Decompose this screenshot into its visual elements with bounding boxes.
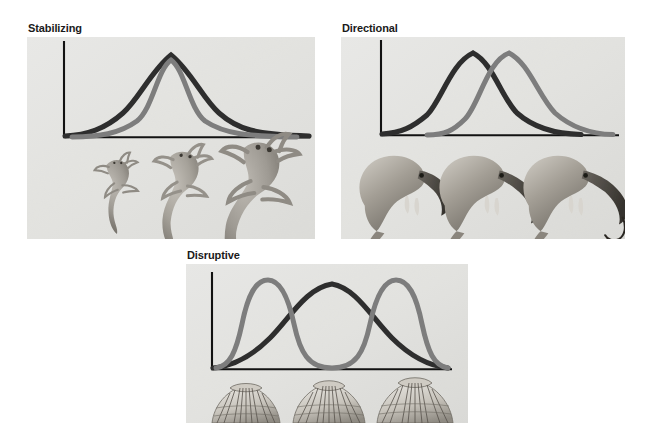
panel-label-disruptive: Disruptive: [187, 249, 240, 262]
directional-panel-graphic: [341, 37, 625, 239]
panel-label-stabilizing: Stabilizing: [28, 22, 82, 35]
panel-disruptive: [186, 264, 468, 423]
stabilizing-panel-graphic: [27, 37, 315, 239]
disruptive-panel-graphic: [186, 264, 468, 423]
selection-modes-figure: Stabilizing: [0, 0, 650, 423]
panel-stabilizing: [27, 37, 315, 239]
panel-directional: [341, 37, 625, 239]
panel-label-directional: Directional: [342, 22, 398, 35]
